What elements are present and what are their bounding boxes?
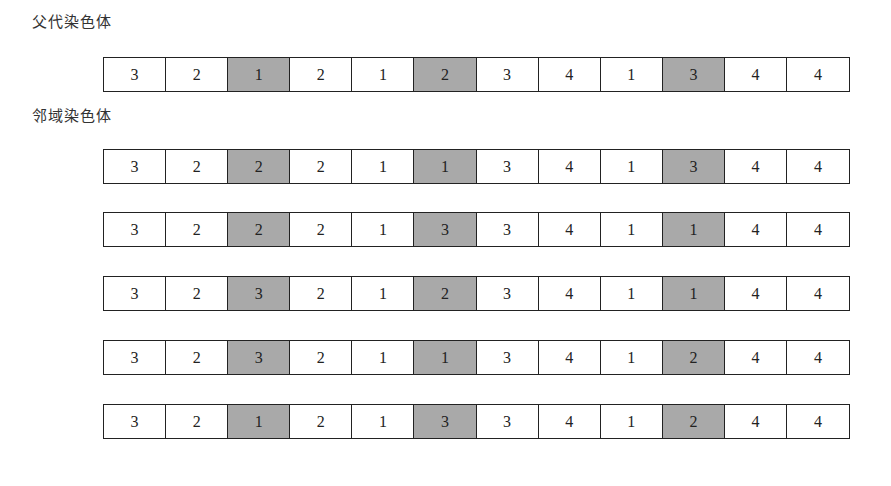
gene-cell: 4	[725, 150, 787, 183]
gene-cell: 1	[601, 213, 663, 246]
gene-cell: 1	[352, 213, 414, 246]
gene-cell: 2	[166, 150, 228, 183]
gene-cell: 4	[725, 341, 787, 374]
gene-cell: 1	[601, 405, 663, 438]
neighbor-chromosome: 321213341244	[103, 404, 850, 439]
neighbor-chromosome: 323211341244	[103, 340, 850, 375]
gene-cell: 2	[166, 213, 228, 246]
gene-cell-highlighted: 1	[414, 150, 476, 183]
gene-cell: 1	[601, 277, 663, 310]
gene-cell: 1	[352, 341, 414, 374]
gene-cell-highlighted: 3	[414, 405, 476, 438]
gene-cell: 3	[477, 405, 539, 438]
gene-cell: 3	[477, 277, 539, 310]
gene-cell: 4	[539, 150, 601, 183]
gene-cell: 4	[539, 277, 601, 310]
gene-cell: 4	[787, 213, 849, 246]
gene-cell: 4	[725, 58, 787, 91]
gene-cell: 1	[601, 58, 663, 91]
gene-cell: 4	[725, 277, 787, 310]
neighbor-chromosome-label: 邻域染色体	[32, 104, 112, 125]
gene-cell: 3	[104, 277, 166, 310]
gene-cell: 2	[290, 405, 352, 438]
gene-cell: 3	[477, 150, 539, 183]
gene-cell: 3	[477, 341, 539, 374]
gene-cell: 2	[290, 58, 352, 91]
gene-cell: 3	[104, 150, 166, 183]
neighbor-chromosome: 323212341144	[103, 276, 850, 311]
gene-cell: 1	[352, 150, 414, 183]
neighbor-chromosome: 322213341144	[103, 212, 850, 247]
neighbor-chromosome: 322211341344	[103, 149, 850, 184]
gene-cell-highlighted: 2	[663, 341, 725, 374]
gene-cell-highlighted: 2	[663, 405, 725, 438]
gene-cell-highlighted: 1	[228, 405, 290, 438]
gene-cell-highlighted: 3	[228, 277, 290, 310]
gene-cell-highlighted: 1	[663, 213, 725, 246]
gene-cell: 2	[290, 150, 352, 183]
gene-cell: 2	[290, 277, 352, 310]
gene-cell: 4	[725, 213, 787, 246]
gene-cell-highlighted: 3	[663, 58, 725, 91]
gene-cell: 3	[477, 58, 539, 91]
gene-cell-highlighted: 1	[228, 58, 290, 91]
gene-cell-highlighted: 1	[414, 341, 476, 374]
gene-cell: 4	[787, 150, 849, 183]
gene-cell-highlighted: 3	[414, 213, 476, 246]
gene-cell: 1	[601, 150, 663, 183]
gene-cell: 3	[104, 341, 166, 374]
parent-chromosome-label: 父代染色体	[32, 10, 112, 31]
gene-cell: 4	[787, 277, 849, 310]
gene-cell-highlighted: 2	[414, 58, 476, 91]
gene-cell-highlighted: 3	[228, 341, 290, 374]
gene-cell: 2	[166, 277, 228, 310]
gene-cell: 3	[477, 213, 539, 246]
gene-cell: 2	[290, 213, 352, 246]
gene-cell: 1	[601, 341, 663, 374]
gene-cell: 4	[539, 405, 601, 438]
parent-chromosome: 321212341344	[103, 57, 850, 92]
gene-cell: 1	[352, 58, 414, 91]
gene-cell-highlighted: 1	[663, 277, 725, 310]
gene-cell: 4	[787, 341, 849, 374]
gene-cell: 3	[104, 213, 166, 246]
gene-cell: 1	[352, 405, 414, 438]
gene-cell: 2	[290, 341, 352, 374]
gene-cell-highlighted: 3	[663, 150, 725, 183]
gene-cell: 4	[787, 405, 849, 438]
gene-cell: 3	[104, 58, 166, 91]
gene-cell: 1	[352, 277, 414, 310]
gene-cell-highlighted: 2	[414, 277, 476, 310]
gene-cell: 2	[166, 58, 228, 91]
gene-cell: 4	[539, 341, 601, 374]
gene-cell: 4	[539, 58, 601, 91]
gene-cell: 4	[539, 213, 601, 246]
gene-cell-highlighted: 2	[228, 213, 290, 246]
gene-cell: 2	[166, 405, 228, 438]
gene-cell-highlighted: 2	[228, 150, 290, 183]
gene-cell: 4	[787, 58, 849, 91]
gene-cell: 4	[725, 405, 787, 438]
gene-cell: 2	[166, 341, 228, 374]
gene-cell: 3	[104, 405, 166, 438]
